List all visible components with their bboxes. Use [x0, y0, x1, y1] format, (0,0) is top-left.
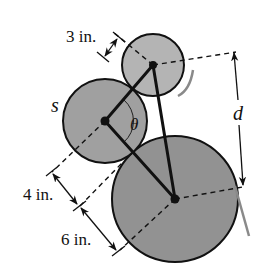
small-center-dot: [149, 61, 157, 69]
large-center-dot: [171, 195, 180, 204]
label-6in: 6 in.: [61, 230, 91, 249]
three-circles-diagram: 3 in. 4 in. 6 in. d s θ: [0, 0, 270, 275]
dimension-3in: [97, 32, 125, 62]
label-d: d: [233, 102, 244, 124]
label-3in: 3 in.: [66, 27, 96, 46]
middle-center-dot: [101, 117, 110, 126]
label-theta: θ: [130, 115, 138, 134]
label-s: s: [51, 94, 59, 116]
label-4in: 4 in.: [23, 185, 53, 204]
